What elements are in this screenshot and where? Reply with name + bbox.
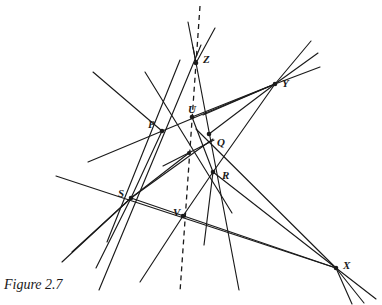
point-label-X: X [343,260,350,271]
point-dot-Y [273,82,278,87]
line-X-ray-out-2 [336,268,364,303]
unlabeled-node-0 [187,151,191,155]
point-label-S: S [118,188,124,199]
point-dot-Z [194,61,199,66]
point-dot-P [160,129,165,134]
point-label-Q: Q [217,137,225,148]
line-S-ray-down-left-3 [72,198,131,252]
line-S-ray-down-left-2 [96,198,131,268]
point-dot-X [334,266,339,271]
line-V-ray-down-left [140,216,183,282]
line-Z-through-S-down-left [99,45,201,290]
point-label-Z: Z [203,54,210,65]
point-dot-V [181,214,186,219]
line-S-to-R-to-X [131,198,336,268]
line-X-ray-out-1 [336,268,376,299]
point-dot-S [129,196,134,201]
point-label-R: R [222,170,229,181]
solid-lines-group [56,22,376,304]
line-R-to-X-direct [213,172,336,268]
line-S-P-U-Z-upper-left-ray [107,60,180,242]
geometry-canvas [0,0,382,305]
line-P-S-segment [131,131,162,198]
point-dot-U [190,115,195,120]
point-dot-R [211,170,216,175]
point-label-P: P [148,119,155,130]
point-label-U: U [188,104,196,115]
line-X-ray-out-3 [336,268,352,304]
point-label-Y: Y [282,78,289,89]
point-label-V: V [173,207,180,218]
line-Q-to-Y-line [209,84,275,134]
point-dot-Q [207,132,212,137]
line-Z-upper-ray-left [188,22,196,63]
line-U-Q-R-chain [192,117,213,172]
figure-container: ZYUPQRSVX Figure 2.7 [0,0,382,305]
line-Q-R-to-X [196,129,336,268]
figure-caption: Figure 2.7 [4,277,63,293]
